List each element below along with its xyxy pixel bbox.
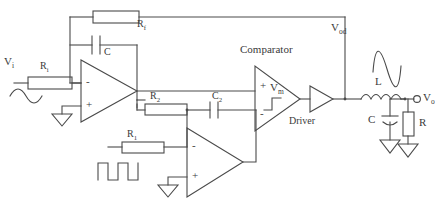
comparator-noninverting-sign: +: [260, 80, 266, 91]
inductor-l-body: [361, 95, 401, 100]
opamp1-noninverting-sign: +: [86, 99, 92, 110]
opamp2-inverting-sign: -: [192, 140, 196, 151]
label-r1: R1: [127, 129, 137, 142]
label-vod: Vod: [331, 22, 346, 36]
label-l: L: [375, 76, 382, 87]
label-rf: Rf: [137, 19, 146, 32]
resistor-rout-body: [403, 112, 414, 136]
square-wave-source-waveform: [98, 163, 138, 180]
wire-opamp1-noninverting-to-gnd: [62, 106, 81, 114]
label-cout: C: [368, 114, 375, 125]
resistor-r1-body: [122, 142, 164, 153]
resistor-ri-body: [28, 77, 72, 89]
junction-dot-vod: [344, 98, 347, 101]
label-driver: Driver: [289, 116, 315, 126]
ground-symbol-cout: [380, 140, 400, 153]
label-vm: Vm: [270, 82, 284, 96]
wire-opamp2-output-to-comparator-minus: [243, 110, 256, 162]
label-comparator: Comparator: [240, 44, 293, 55]
label-r2: R2: [150, 91, 160, 104]
label-ri: Ri: [40, 61, 49, 74]
comparator-inverting-sign: -: [260, 108, 264, 119]
wire-opamp2-noninverting-to-gnd: [168, 177, 187, 185]
input-sine-waveform: [10, 89, 42, 103]
resistor-r2-body: [145, 104, 187, 115]
ground-symbol-opamp1: [52, 114, 72, 126]
ground-symbol-rout: [398, 144, 418, 157]
resistor-rf-body: [93, 11, 139, 23]
label-c2: C2: [212, 91, 222, 104]
driver-body: [310, 86, 333, 112]
junction-dot-r2c2: [186, 109, 189, 112]
label-vo: Vo: [423, 92, 435, 106]
comparator-step-symbol: [264, 98, 281, 110]
opamp2-noninverting-sign: +: [192, 170, 198, 181]
opamp-integrator-body: [81, 60, 137, 122]
opamp1-inverting-sign: -: [86, 76, 90, 87]
label-rout: R: [419, 117, 426, 128]
ground-symbol-opamp2: [158, 185, 178, 197]
output-terminal-circle: [414, 96, 421, 103]
label-vi: Vi: [4, 56, 14, 70]
label-c-feedback: C: [104, 47, 111, 57]
